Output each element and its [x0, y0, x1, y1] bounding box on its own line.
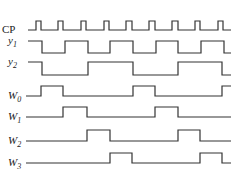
signal-cp: CP — [2, 21, 231, 35]
signal-label-w2: W2 — [8, 134, 21, 149]
signal-w0: W0 — [8, 86, 231, 104]
signal-w1: W1 — [8, 107, 231, 125]
signal-y2: y2 — [7, 55, 231, 75]
timing-diagram: CP y1 y2 W0 W1 W2 W3 — [0, 0, 246, 178]
waveform-w1 — [26, 107, 231, 117]
signal-label-w3: W3 — [8, 156, 21, 171]
waveform-y1 — [28, 41, 231, 53]
waveform-w3 — [26, 153, 231, 163]
signal-label-y2: y2 — [7, 55, 17, 70]
signal-label-y1: y1 — [7, 34, 17, 49]
signal-label-w0: W0 — [8, 89, 21, 104]
waveform-y2 — [28, 62, 231, 75]
signal-w2: W2 — [8, 130, 231, 149]
signal-y1: y1 — [7, 34, 231, 53]
signal-label-w1: W1 — [8, 110, 21, 125]
waveform-w2 — [26, 130, 231, 141]
waveform-w0 — [26, 86, 231, 96]
waveform-cp — [28, 21, 231, 30]
signal-w3: W3 — [8, 153, 231, 171]
